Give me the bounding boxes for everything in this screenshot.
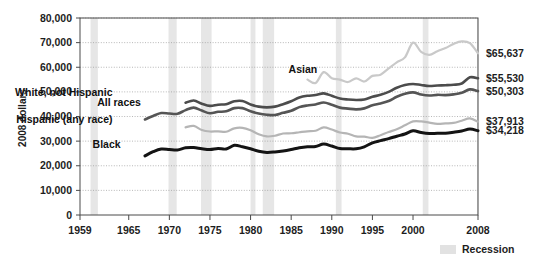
series-end-value-label: $55,530 bbox=[486, 72, 524, 84]
x-axis-tick-label: 1965 bbox=[117, 224, 141, 236]
y-axis-tick-label: 70,000 bbox=[40, 36, 72, 48]
series-label: Black bbox=[93, 138, 121, 150]
y-axis-tick-label: 20,000 bbox=[40, 159, 72, 171]
x-axis-tick-label: 2008 bbox=[466, 224, 490, 236]
y-axis-tick-label: 80,000 bbox=[40, 12, 72, 24]
y-axis-title: 2008 dollars bbox=[17, 89, 28, 147]
y-axis-tick-label: 0 bbox=[66, 209, 72, 221]
series-label: Asian bbox=[289, 63, 318, 75]
recession-legend-swatch bbox=[440, 245, 456, 254]
x-axis-tick-label: 1959 bbox=[68, 224, 92, 236]
x-axis-tick-label: 1995 bbox=[361, 224, 385, 236]
series-end-value-label: $50,303 bbox=[486, 85, 524, 97]
x-axis-tick-label: 1980 bbox=[239, 224, 263, 236]
x-axis-tick-label: 2000 bbox=[401, 224, 425, 236]
series-end-value-label: $34,218 bbox=[486, 124, 524, 136]
series-end-value-label: $65,637 bbox=[486, 47, 524, 59]
y-axis-tick-label: 60,000 bbox=[40, 61, 72, 73]
x-axis-tick-label: 1975 bbox=[198, 224, 222, 236]
x-axis-tick-label: 1990 bbox=[320, 224, 344, 236]
income-by-race-line-chart: 010,00020,00030,00040,00050,00060,00070,… bbox=[0, 0, 544, 267]
y-axis-tick-label: 10,000 bbox=[40, 184, 72, 196]
series-label: Hispanic (any race) bbox=[16, 113, 112, 125]
x-axis-tick-label: 1985 bbox=[280, 224, 304, 236]
recession-band bbox=[169, 18, 177, 215]
series-label: All races bbox=[97, 96, 141, 108]
y-axis-tick-label: 30,000 bbox=[40, 135, 72, 147]
x-axis-tick-label: 1970 bbox=[158, 224, 182, 236]
recession-legend-label: Recession bbox=[462, 243, 515, 255]
chart-svg: 010,00020,00030,00040,00050,00060,00070,… bbox=[0, 0, 544, 267]
